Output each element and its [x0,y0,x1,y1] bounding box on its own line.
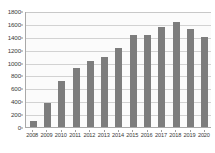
plot-area [25,12,211,128]
bar[interactable] [58,81,65,127]
y-tick-label: 1000 [8,60,21,66]
x-tick-mark [32,130,33,132]
x-tick-label: 2018 [169,132,181,138]
x-tick-mark [175,130,176,132]
x-tick-label: 2012 [83,132,95,138]
bar[interactable] [173,22,180,127]
y-tick-label: 1200 [8,48,21,54]
y-tick-mark [21,24,23,25]
bar[interactable] [187,29,194,127]
x-tick-label: 2020 [198,132,210,138]
y-tick-label: 800 [11,73,21,79]
bar[interactable] [201,37,208,127]
y-tick-mark [21,12,23,13]
bar[interactable] [158,27,165,127]
bars-layer [26,12,211,127]
x-tick-mark [161,130,162,132]
y-tick-label: 600 [11,86,21,92]
bar-chart-figure: 020040060080010001200140016001800 200820… [0,0,215,153]
x-tick-label: 2016 [141,132,153,138]
bar[interactable] [73,68,80,127]
x-tick-mark [204,130,205,132]
bar-slot [55,12,69,127]
y-tick-mark [21,128,23,129]
y-axis: 020040060080010001200140016001800 [0,12,23,128]
x-tick-label: 2009 [41,132,53,138]
bar[interactable] [44,103,51,127]
bar[interactable] [87,61,94,127]
bar-slot [98,12,112,127]
bar-slot [169,12,183,127]
bar[interactable] [144,35,151,127]
y-tick-label: 1600 [8,22,21,28]
y-tick-mark [21,50,23,51]
x-tick-mark [104,130,105,132]
x-tick-label: 2013 [98,132,110,138]
y-tick-mark [21,115,23,116]
bar-slot [198,12,212,127]
y-tick-label: 1400 [8,35,21,41]
x-tick-mark [132,130,133,132]
y-tick-mark [21,76,23,77]
x-tick-label: 2017 [155,132,167,138]
x-tick-label: 2015 [126,132,138,138]
bar[interactable] [130,35,137,127]
bar-slot [69,12,83,127]
y-tick-label: 1800 [8,9,21,15]
bar[interactable] [30,121,37,127]
bar-slot [140,12,154,127]
bar-slot [112,12,126,127]
bar-slot [26,12,40,127]
y-tick-mark [21,89,23,90]
x-tick-mark [75,130,76,132]
y-tick-mark [21,63,23,64]
bar-slot [126,12,140,127]
y-tick-mark [21,102,23,103]
x-tick-mark [190,130,191,132]
y-tick-mark [21,37,23,38]
x-tick-label: 2014 [112,132,124,138]
x-axis: 2008200920102011201220132014201520162017… [25,130,211,144]
x-tick-label: 2011 [69,132,80,138]
bar-slot [40,12,54,127]
y-tick-label: 200 [11,112,21,118]
x-tick-label: 2010 [55,132,67,138]
x-tick-label: 2008 [26,132,38,138]
x-tick-mark [89,130,90,132]
bar-slot [155,12,169,127]
bar[interactable] [115,48,122,127]
bar-slot [83,12,97,127]
x-tick-label: 2019 [184,132,196,138]
x-tick-mark [147,130,148,132]
bar-slot [183,12,197,127]
y-tick-label: 400 [11,99,21,105]
x-tick-mark [46,130,47,132]
x-tick-mark [118,130,119,132]
x-tick-mark [61,130,62,132]
bar[interactable] [101,57,108,127]
